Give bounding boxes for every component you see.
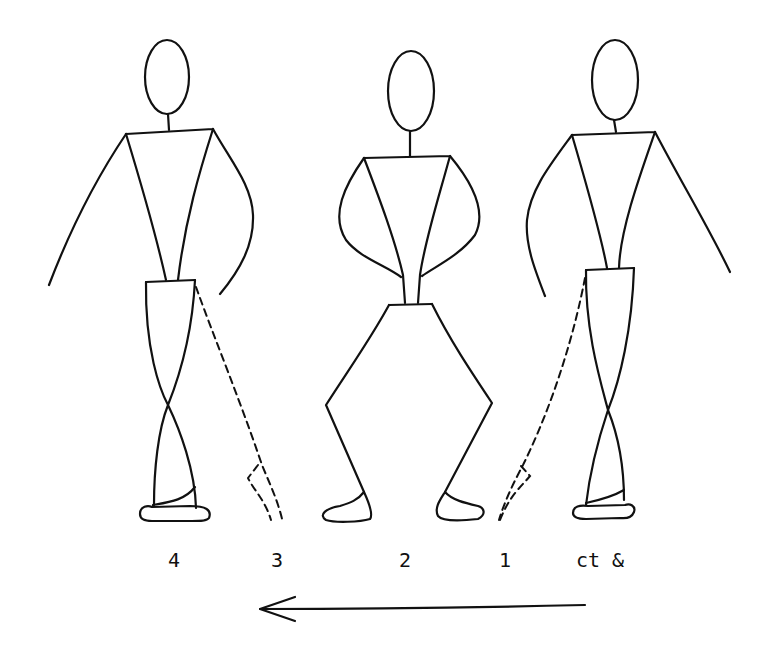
head-middle [388,51,434,131]
neck-left [168,114,169,130]
arrow-shaft [260,605,585,609]
feet-middle [323,492,484,522]
count-label-ct-and: ct & [576,548,624,572]
torso-left [126,129,213,280]
count-label-3: 3 [271,548,283,572]
dashed-leg-left [196,287,283,523]
hips-right [586,268,634,270]
dashed-leg-right [499,278,585,520]
direction-arrow [260,597,585,621]
dance-diagram: 4 3 2 1 ct & [0,0,780,649]
foot-left [140,487,210,521]
arm-left-right [213,129,253,294]
count-label-1: 1 [499,548,511,572]
arms-middle [339,156,479,277]
legs-middle [326,304,492,492]
head-right [592,40,638,120]
count-label-4: 4 [168,548,180,572]
count-label-2: 2 [399,548,411,572]
hips-left [146,280,195,282]
neck-right [614,120,616,132]
head-left [145,40,189,114]
arm-right-right [655,132,730,272]
torso-middle [364,156,450,303]
arm-right-left [527,135,572,296]
legs-right [586,268,634,505]
torso-right [572,132,655,268]
hips-middle [389,304,432,305]
foot-right [573,490,634,519]
legs-left [146,280,196,508]
figure-middle [323,51,492,522]
figure-left [49,40,283,523]
figure-right [499,40,730,520]
arm-left-left [49,134,126,285]
